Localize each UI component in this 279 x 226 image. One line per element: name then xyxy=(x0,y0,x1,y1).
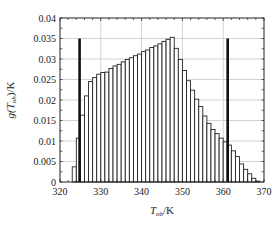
histogram-bar xyxy=(244,169,248,182)
y-tick-labels: 00.0050.010.0150.020.0250.030.0350.04 xyxy=(34,13,57,188)
histogram-chart: 320330340350360370 00.0050.010.0150.020.… xyxy=(0,0,279,226)
x-tick-labels: 320330340350360370 xyxy=(53,186,272,197)
histogram-bar xyxy=(154,46,158,182)
x-axis-label: Tob/K xyxy=(150,204,174,218)
histogram-bar xyxy=(125,59,129,182)
x-tick-label: 350 xyxy=(175,186,190,197)
histogram-bar xyxy=(142,52,146,182)
histogram-bar xyxy=(113,66,117,182)
histogram-bar xyxy=(203,116,207,182)
y-tick-label: 0.04 xyxy=(39,13,57,24)
y-axis-label: g(Tob)/K xyxy=(4,81,18,118)
histogram-bar xyxy=(84,96,88,182)
histogram-bar xyxy=(182,70,186,182)
x-tick-label: 320 xyxy=(53,186,68,197)
histogram-bar xyxy=(219,138,223,182)
histogram-bar xyxy=(89,82,93,182)
histogram-bar xyxy=(248,174,252,182)
y-tick-label: 0.035 xyxy=(34,33,57,44)
histogram-bar xyxy=(80,115,84,182)
y-tick-label: 0.02 xyxy=(39,95,57,106)
histogram-bar xyxy=(72,167,76,182)
histogram-bar xyxy=(235,157,239,182)
histogram-bar xyxy=(199,107,203,182)
y-tick-label: 0 xyxy=(51,177,56,188)
histogram-bar xyxy=(129,58,133,182)
histogram-bar xyxy=(240,164,244,182)
histogram-bar xyxy=(101,73,105,182)
x-tick-label: 330 xyxy=(93,186,108,197)
histogram-bar xyxy=(105,72,109,182)
histogram-bar xyxy=(117,64,121,182)
y-tick-label: 0.03 xyxy=(39,54,57,65)
histogram-bar xyxy=(170,37,174,182)
histogram-bar xyxy=(207,123,211,182)
x-tick-label: 370 xyxy=(257,186,272,197)
histogram-bar xyxy=(146,50,150,182)
y-axis-label-prefix: g(T xyxy=(4,102,17,118)
histogram-bar xyxy=(121,62,125,182)
histogram-bar xyxy=(162,41,166,182)
histogram-bar xyxy=(138,54,142,182)
x-axis-label-unit: /K xyxy=(163,204,174,216)
x-tick-label: 340 xyxy=(134,186,149,197)
histogram-bar xyxy=(158,44,162,182)
histogram-bar xyxy=(109,68,113,182)
histogram-bar xyxy=(215,134,219,182)
x-tick-label: 360 xyxy=(216,186,231,197)
histogram-bar xyxy=(186,81,190,182)
histogram-bar xyxy=(211,130,215,182)
histogram-bar xyxy=(93,77,97,182)
histogram-bar xyxy=(166,39,170,182)
histogram-bar xyxy=(191,90,195,182)
histogram-bar xyxy=(174,48,178,182)
y-axis-label-unit: )/K xyxy=(4,81,17,96)
histogram-bar xyxy=(178,59,182,182)
histogram-bar xyxy=(133,56,137,182)
histogram-bar xyxy=(252,178,256,182)
histogram-bar xyxy=(231,151,235,182)
y-tick-label: 0.01 xyxy=(39,136,57,147)
histogram-bar xyxy=(195,99,199,182)
y-tick-label: 0.015 xyxy=(34,115,57,126)
histogram-bar xyxy=(97,74,101,182)
histogram-bar xyxy=(150,48,154,182)
y-tick-label: 0.005 xyxy=(34,156,57,167)
y-tick-label: 0.025 xyxy=(34,74,57,85)
